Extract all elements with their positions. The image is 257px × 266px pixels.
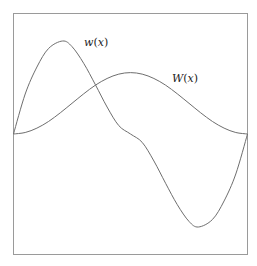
label-big-w: W(x) <box>172 73 198 84</box>
label-big-w-close: ) <box>194 72 198 85</box>
curve-big-w <box>14 73 248 134</box>
label-w-name: w <box>84 36 93 49</box>
curve-w <box>14 41 248 227</box>
chart <box>0 0 257 266</box>
label-w-close: ) <box>104 36 108 49</box>
label-big-w-name: W <box>172 72 183 85</box>
label-w: w(x) <box>84 37 108 48</box>
